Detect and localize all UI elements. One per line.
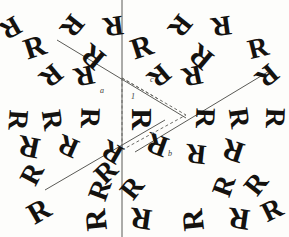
label-1: 1 <box>131 93 135 101</box>
cell-edge-bottom <box>122 115 186 150</box>
unit-cell-layer <box>0 0 289 237</box>
label-c: c <box>150 76 154 84</box>
symmetry-pattern-figure: RRRRRRRRRRRRRRRRRRRRRRRRRRRRRRRRRRRRRRRR… <box>0 0 289 237</box>
label-a: a <box>100 87 104 95</box>
label-b: b <box>168 150 172 158</box>
cell-diagonal-inner <box>122 78 160 100</box>
